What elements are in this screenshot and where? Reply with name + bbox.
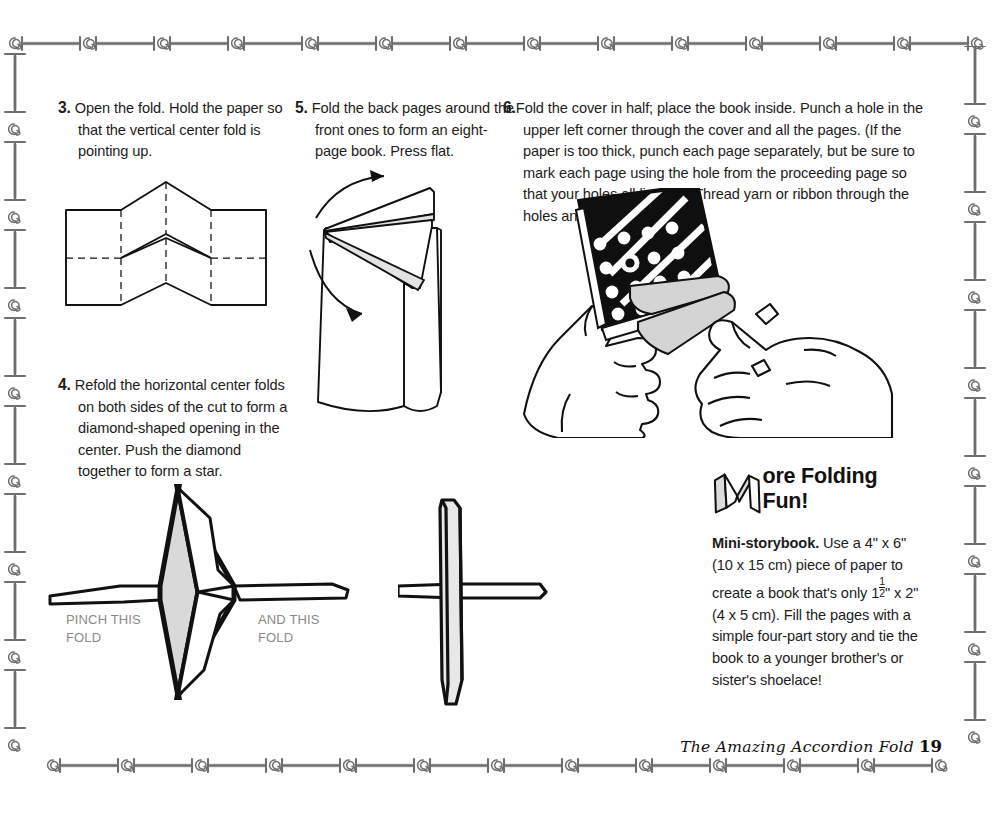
hands-holding-punched-book-illustration <box>518 188 898 438</box>
more-folding-fun-heading: ore Folding Fun! <box>712 472 924 516</box>
callout-pinch-line2: FOLD <box>66 629 141 647</box>
step-number-3: 3. <box>58 99 71 116</box>
right-border-decoration <box>962 46 996 758</box>
callout-pinch-this-fold: PINCH THIS FOLD <box>66 611 141 647</box>
step-text-4: Refold the horizontal center folds on bo… <box>75 377 287 479</box>
footer-page-number: 19 <box>919 737 942 756</box>
step-text-5: Fold the back pages around the front one… <box>312 100 514 159</box>
diamond-star-fold-diagram <box>48 474 360 712</box>
step-text-3: Open the fold. Hold the paper so that th… <box>75 100 283 159</box>
mini-storybook-label: Mini-storybook. <box>712 535 819 551</box>
instruction-step-5: 5. Fold the back pages around the front … <box>295 97 515 163</box>
page-canvas: 3. Open the fold. Hold the paper so that… <box>0 0 1002 815</box>
instruction-step-3: 3. Open the fold. Hold the paper so that… <box>58 97 283 163</box>
more-folding-fun-section: ore Folding Fun! Mini-storybook. Use a 4… <box>712 472 924 691</box>
instruction-step-4: 4. Refold the horizontal center folds on… <box>58 374 293 483</box>
step-number-6: 6. <box>503 99 516 116</box>
callout-and-this-fold: AND THIS FOLD <box>258 611 320 647</box>
eight-page-book-diagram <box>300 170 496 428</box>
callout-and-line2: FOLD <box>258 629 320 647</box>
left-border-decoration <box>2 46 36 758</box>
accordion-fold-paper-diagram <box>52 172 292 320</box>
step-number-5: 5. <box>295 99 308 116</box>
pinched-star-cross-diagram <box>398 498 578 710</box>
folded-paper-m-drop-cap-icon <box>712 472 762 516</box>
more-folding-fun-body: Mini-storybook. Use a 4" x 6" (10 x 15 c… <box>712 533 924 691</box>
callout-pinch-line1: PINCH THIS <box>66 611 141 629</box>
page-footer: The Amazing Accordion Fold19 <box>660 737 942 756</box>
more-folding-fun-title: ore Folding Fun! <box>762 464 924 516</box>
top-border-decoration <box>0 26 1002 60</box>
callout-and-line1: AND THIS <box>258 611 320 629</box>
step-number-4: 4. <box>58 376 71 393</box>
footer-chapter-title: The Amazing Accordion Fold <box>680 738 914 756</box>
